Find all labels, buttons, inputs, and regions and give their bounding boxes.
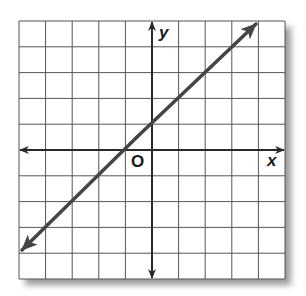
y-axis-label: y	[158, 23, 170, 42]
coordinate-plane: y x O	[0, 0, 306, 296]
x-axis-label: x	[266, 151, 278, 170]
origin-label: O	[131, 152, 144, 171]
